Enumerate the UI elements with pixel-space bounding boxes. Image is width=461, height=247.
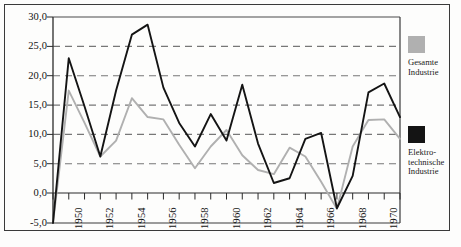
chart-legend: Gesamte Industrie Elektro- technische In…: [408, 36, 461, 185]
x-tick-label-1964: 1964: [294, 207, 305, 229]
legend-entry-gesamte-industrie: Gesamte Industrie: [408, 36, 461, 77]
legend-label-line-3: Industrie: [408, 167, 461, 177]
legend-swatch-gray: [408, 36, 425, 53]
x-tick-label-1956: 1956: [167, 207, 178, 229]
legend-entry-elektrotechnische-industrie: Elektro- technische Industrie: [408, 126, 461, 177]
x-tick-label-1950: 1950: [73, 207, 84, 229]
x-tick-label-1958: 1958: [199, 207, 210, 229]
x-tick-label-1970: 1970: [388, 207, 399, 229]
x-tick-label-1960: 1960: [231, 207, 242, 229]
x-tick-label-1952: 1952: [104, 207, 115, 229]
line-chart-figure: 30,0 25,0 20,0 15,0 10,0 5,0 0,0 -5,0 19…: [0, 0, 461, 247]
chart-page: 30,0 25,0 20,0 15,0 10,0 5,0 0,0 -5,0 19…: [0, 0, 461, 247]
legend-label-line-2: Industrie: [408, 68, 461, 78]
x-tick-label-1966: 1966: [325, 207, 336, 229]
x-axis-labels: 1950195219541956195819601962196419661968…: [0, 0, 461, 247]
legend-swatch-black: [408, 126, 425, 143]
x-tick-label-1962: 1962: [262, 207, 273, 229]
x-tick-label-1954: 1954: [136, 207, 147, 229]
x-tick-label-1968: 1968: [357, 207, 368, 229]
